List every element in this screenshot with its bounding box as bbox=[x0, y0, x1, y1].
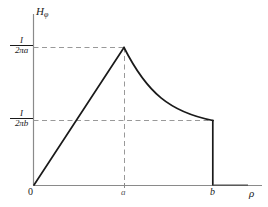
x-tick-label-b: b bbox=[210, 187, 215, 197]
y-tick-upper-numerator: I bbox=[10, 36, 33, 45]
y-tick-lower-denominator: 2πb bbox=[10, 119, 33, 128]
x-axis-title: ρ bbox=[249, 188, 254, 199]
curve-linear-rise bbox=[34, 48, 124, 186]
x-tick-label-origin: 0 bbox=[28, 187, 33, 197]
y-axis-title: Hφ bbox=[36, 6, 48, 19]
curve-inverse-decay bbox=[124, 48, 213, 121]
x-tick-label-a: a bbox=[121, 188, 126, 197]
figure-container: Hφ ρ 0 a b I 2πa I 2πb bbox=[0, 0, 268, 207]
y-tick-lower-numerator: I bbox=[10, 109, 33, 118]
y-tick-label-lower: I 2πb bbox=[10, 109, 33, 129]
y-tick-upper-denominator: 2πa bbox=[10, 46, 33, 55]
y-axis-title-symbol: H bbox=[36, 5, 44, 17]
y-axis-title-subscript: φ bbox=[44, 10, 48, 19]
hphi-vs-rho-plot bbox=[0, 0, 268, 207]
y-tick-label-upper: I 2πa bbox=[10, 36, 33, 56]
